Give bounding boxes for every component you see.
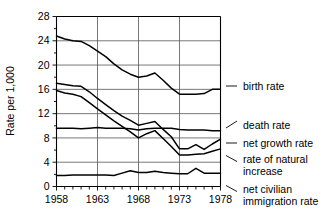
legend-label-birth-rate: birth rate xyxy=(243,80,285,92)
x-tick-label: 1958 xyxy=(45,193,69,205)
chart-container: Rate per 1,000 0481216202428 19581963196… xyxy=(0,0,328,219)
y-tick-label: 16 xyxy=(38,83,50,95)
legend-label-net-civilian-immigration-rate: immigration rate xyxy=(243,195,318,207)
y-tick-label: 0 xyxy=(44,180,50,192)
line-chart-figure: Rate per 1,000 0481216202428 19581963196… xyxy=(0,0,328,219)
y-tick-label: 4 xyxy=(44,156,50,168)
y-tick-label: 28 xyxy=(38,10,50,22)
legend-label-death-rate: death rate xyxy=(243,119,290,131)
x-tick-label: 1973 xyxy=(168,193,192,205)
y-tick-label: 12 xyxy=(38,107,50,119)
legend-label-net-growth-rate: net growth rate xyxy=(243,137,313,149)
y-tick-label: 8 xyxy=(44,132,50,144)
x-tick-label: 1978 xyxy=(209,193,233,205)
x-tick-label: 1963 xyxy=(86,193,110,205)
legend-label-net-civilian-immigration-rate: net civilian xyxy=(243,183,292,195)
y-tick-label: 24 xyxy=(38,34,50,46)
x-tick-label: 1968 xyxy=(127,193,151,205)
y-axis-label: Rate per 1,000 xyxy=(4,66,16,136)
y-tick-label: 20 xyxy=(38,59,50,71)
legend-label-rate-of-natural-increase: increase xyxy=(243,165,283,177)
legend-label-rate-of-natural-increase: rate of natural xyxy=(243,153,308,165)
